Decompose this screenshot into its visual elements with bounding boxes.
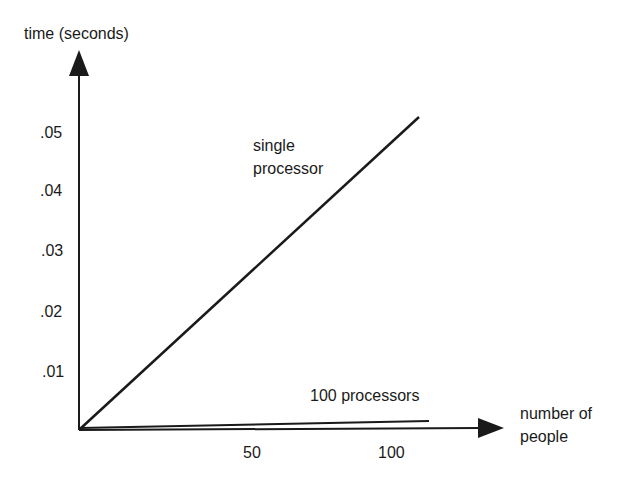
y-axis-label: time (seconds) (24, 24, 129, 44)
single-processor-label-line2: processor (253, 159, 323, 179)
100-processors-label: 100 processors (310, 386, 419, 406)
single-processor-label-line1: single (253, 136, 295, 156)
y-tick-03: .03 (41, 241, 63, 261)
series-100-processors (80, 421, 429, 428)
x-axis-arrow-icon (478, 418, 504, 438)
x-axis-label-line2: people (520, 427, 568, 447)
y-tick-02: .02 (40, 302, 62, 322)
y-tick-01: .01 (42, 362, 64, 382)
x-tick-100: 100 (378, 443, 405, 463)
series-single-processor (80, 117, 419, 429)
y-tick-05: .05 (40, 123, 62, 143)
x-axis-label-line1: number of (520, 404, 592, 424)
y-tick-04: .04 (40, 181, 62, 201)
x-tick-50: 50 (243, 443, 261, 463)
y-axis-arrow-icon (69, 50, 89, 76)
x-axis (79, 428, 480, 430)
